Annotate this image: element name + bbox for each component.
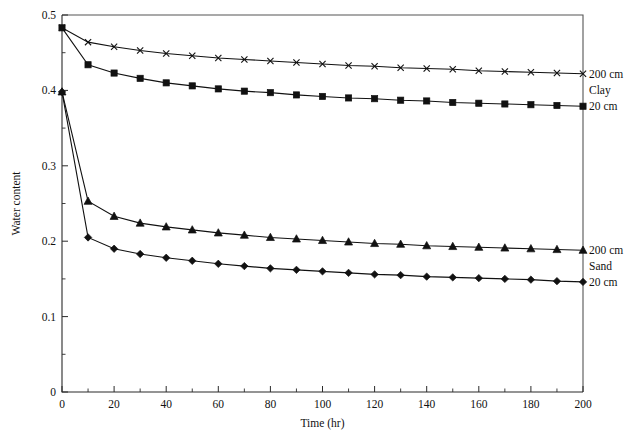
- x-tick-label: 20: [108, 398, 120, 410]
- marker-square: [398, 97, 404, 103]
- data-series: [58, 25, 587, 286]
- marker-square: [59, 25, 65, 31]
- marker-square: [319, 93, 325, 99]
- x-tick-label: 120: [366, 398, 384, 410]
- y-tick-label: 0: [50, 386, 56, 398]
- marker-diamond: [293, 266, 300, 273]
- water-content-chart-figure: 020406080100120140160180200 00.10.20.30.…: [0, 0, 632, 436]
- marker-diamond: [163, 254, 170, 261]
- clay-group-label: Clay: [589, 84, 611, 97]
- marker-diamond: [241, 262, 248, 269]
- marker-diamond: [423, 273, 430, 280]
- marker-square: [502, 101, 508, 107]
- marker-square: [345, 95, 351, 101]
- x-tick-label: 80: [265, 398, 277, 410]
- x-tick-label: 140: [418, 398, 436, 410]
- marker-diamond: [371, 271, 378, 278]
- marker-diamond: [527, 276, 534, 283]
- marker-diamond: [397, 271, 404, 278]
- x-tick-label: 60: [213, 398, 225, 410]
- x-tick-label: 200: [574, 398, 592, 410]
- x-tick-labels: 020406080100120140160180200: [59, 398, 592, 410]
- marker-diamond: [215, 260, 222, 267]
- marker-diamond: [475, 274, 482, 281]
- marker-square: [293, 92, 299, 98]
- marker-square: [424, 98, 430, 104]
- marker-diamond: [449, 274, 456, 281]
- marker-square: [111, 70, 117, 76]
- marker-square: [450, 99, 456, 105]
- marker-triangle: [110, 212, 118, 219]
- clay-200cm-label: 200 cm: [589, 68, 623, 80]
- y-tick-label: 0.3: [42, 160, 57, 172]
- marker-diamond: [579, 278, 586, 285]
- sand-200cm-label: 200 cm: [589, 244, 623, 256]
- x-tick-label: 100: [314, 398, 332, 410]
- marker-diamond: [553, 277, 560, 284]
- marker-diamond: [189, 257, 196, 264]
- x-tick-label: 40: [160, 398, 172, 410]
- marker-square: [476, 100, 482, 106]
- marker-diamond: [84, 234, 91, 241]
- x-tick-label: 160: [470, 398, 488, 410]
- y-tick-label: 0.1: [42, 311, 57, 323]
- x-tick-label: 180: [522, 398, 540, 410]
- series-annotations: 200 cmClay20 cm200 cmSand20 cm: [589, 68, 623, 288]
- series-sand-200cm: [58, 88, 587, 254]
- marker-triangle: [84, 197, 92, 204]
- x-tick-label: 0: [59, 398, 65, 410]
- marker-diamond: [501, 275, 508, 282]
- marker-diamond: [345, 269, 352, 276]
- marker-square: [137, 75, 143, 81]
- y-tick-label: 0.5: [42, 9, 57, 21]
- clay-20cm-label: 20 cm: [589, 100, 617, 112]
- axis-titles: Time (hr)Water content: [10, 171, 345, 430]
- y-tick-label: 0.2: [42, 235, 57, 247]
- y-tick-label: 0.4: [42, 84, 57, 96]
- marker-square: [528, 102, 534, 108]
- series-clay-200cm: [59, 25, 586, 77]
- marker-square: [241, 88, 247, 94]
- series-sand-20cm: [58, 88, 586, 285]
- series-clay-20cm: [59, 25, 586, 110]
- marker-square: [215, 86, 221, 92]
- marker-square: [580, 103, 586, 109]
- marker-diamond: [110, 245, 117, 252]
- marker-square: [189, 83, 195, 89]
- marker-diamond: [267, 265, 274, 272]
- y-axis-title: Water content: [10, 171, 22, 236]
- marker-square: [554, 102, 560, 108]
- x-axis-title: Time (hr): [301, 417, 345, 430]
- marker-diamond: [136, 250, 143, 257]
- marker-square: [372, 96, 378, 102]
- marker-square: [163, 80, 169, 86]
- sand-20cm-label: 20 cm: [589, 276, 617, 288]
- y-tick-labels: 00.10.20.30.40.5: [42, 9, 57, 398]
- marker-square: [267, 90, 273, 96]
- chart-canvas: 020406080100120140160180200 00.10.20.30.…: [0, 0, 632, 436]
- sand-group-label: Sand: [589, 260, 612, 272]
- marker-diamond: [319, 268, 326, 275]
- marker-square: [85, 62, 91, 68]
